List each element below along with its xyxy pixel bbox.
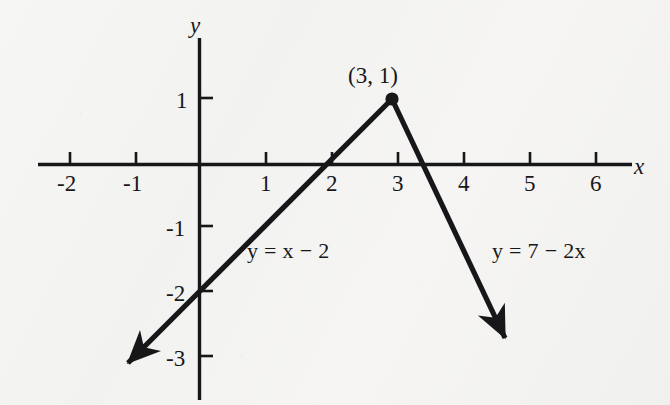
x-tick-label-6: 6 <box>590 172 602 195</box>
graph-canvas <box>0 0 670 405</box>
y-tick-label-1: 1 <box>176 89 188 112</box>
line-y-equals-7-minus-2x <box>392 99 505 338</box>
right-branch-equation-label: y = 7 − 2x <box>492 240 586 262</box>
vertex-point-marker <box>385 92 398 105</box>
vertex-coordinate-label: (3, 1) <box>348 64 398 87</box>
y-axis-label: y <box>190 14 200 37</box>
graph-figure: -2 -1 1 2 3 4 5 6 1 -1 -2 -3 x y (3, 1) … <box>0 0 670 405</box>
y-tick-label--1: -1 <box>166 217 185 240</box>
x-tick-label-4: 4 <box>458 172 470 195</box>
x-tick-label-1: 1 <box>260 172 272 195</box>
x-tick-label--1: -1 <box>123 172 142 195</box>
y-tick-label--2: -2 <box>166 282 185 305</box>
y-tick-label--3: -3 <box>166 347 185 370</box>
x-tick-label-5: 5 <box>524 172 536 195</box>
x-axis-label: x <box>634 155 644 178</box>
x-tick-label-3: 3 <box>392 172 404 195</box>
left-branch-equation-label: y = x − 2 <box>247 240 330 262</box>
x-tick-label--2: -2 <box>57 172 76 195</box>
x-tick-label-2: 2 <box>326 172 338 195</box>
